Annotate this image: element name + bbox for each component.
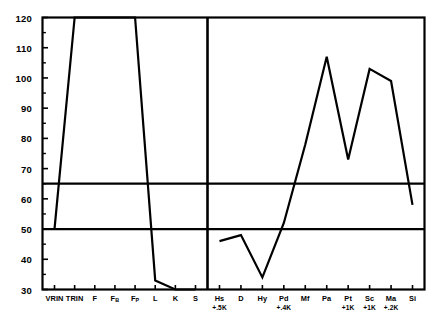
x-label-kcorrection-Ma: +.2K <box>384 303 399 312</box>
mmpi-profile-chart: 30405060708090100110120 VRINTRINFFBFPLKS… <box>0 0 433 321</box>
x-label-Mf: Mf <box>301 294 310 303</box>
series-line-validity-scales <box>55 18 196 290</box>
x-label-Ma: Ma+.2K <box>384 294 399 312</box>
x-label-main-Pa: Pa <box>322 294 331 303</box>
x-label-Pt: Pt+1K <box>342 294 355 312</box>
x-label-kcorrection-Pt: +1K <box>342 303 355 312</box>
x-axis-labels-clinical: Hs+.5KDHyPd+.4KMfPaPt+1KSc+1KMa+.2KSi <box>0 294 433 320</box>
x-label-main-Mf: Mf <box>301 294 310 303</box>
x-label-kcorrection-Sc: +1K <box>363 303 376 312</box>
x-label-Si: Si <box>409 294 416 303</box>
x-label-main-Si: Si <box>409 294 416 303</box>
x-label-main-Hy: Hy <box>258 294 268 303</box>
x-label-main-Pt: Pt <box>342 294 355 303</box>
series-line-clinical-scales <box>220 57 413 278</box>
x-label-Pd: Pd+.4K <box>277 294 292 312</box>
x-label-main-Pd: Pd <box>277 294 292 303</box>
x-label-Hy: Hy <box>258 294 268 303</box>
x-label-main-D: D <box>238 294 243 303</box>
x-label-kcorrection-Pd: +.4K <box>277 303 292 312</box>
x-label-main-Ma: Ma <box>384 294 399 303</box>
x-label-Hs: Hs+.5K <box>212 294 227 312</box>
x-label-Sc: Sc+1K <box>363 294 376 312</box>
x-label-D: D <box>238 294 243 303</box>
x-label-main-Hs: Hs <box>212 294 227 303</box>
x-label-Pa: Pa <box>322 294 331 303</box>
x-label-main-Sc: Sc <box>363 294 376 303</box>
x-label-kcorrection-Hs: +.5K <box>212 303 227 312</box>
profile-plot-area <box>0 0 433 321</box>
